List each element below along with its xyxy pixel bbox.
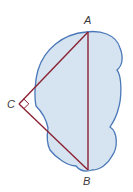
- cloud-region: [35, 32, 122, 171]
- vertex-label-C: C: [7, 98, 15, 110]
- geometry-diagram: A B C: [0, 0, 133, 192]
- right-angle-marker: [24, 99, 29, 109]
- vertex-label-A: A: [83, 14, 91, 26]
- vertex-label-B: B: [83, 175, 90, 187]
